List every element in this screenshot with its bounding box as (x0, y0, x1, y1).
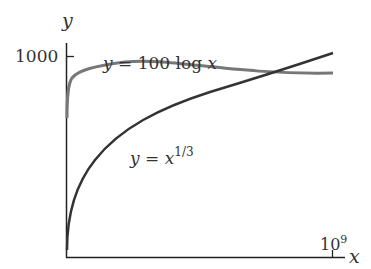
y-tick-label: 1000 (15, 46, 58, 66)
annotation-cuberoot: y = x1/3 (129, 145, 194, 168)
x-axis-label: x (349, 245, 360, 267)
y-axis-label: y (61, 9, 73, 31)
chart: y x 1000 109 y = 100 log x y = x1/3 (0, 0, 371, 269)
x-tick-label: 109 (320, 233, 347, 254)
annotation-log: y = 100 log x (102, 53, 217, 73)
curve-cuberoot (67, 53, 333, 250)
